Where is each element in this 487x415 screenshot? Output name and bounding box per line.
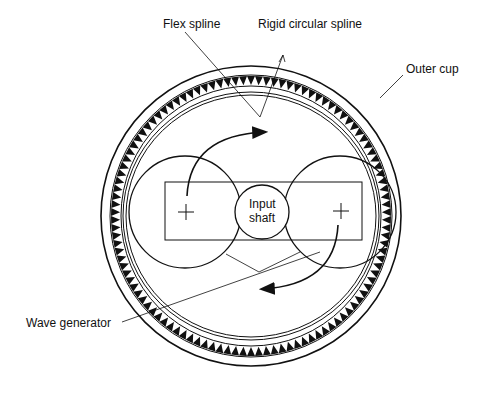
label-rigid-circular-spline: Rigid circular spline (258, 17, 362, 31)
label-outer-cup: Outer cup (406, 62, 459, 76)
label-input-shaft-2: shaft (249, 211, 275, 225)
label-flex-spline: Flex spline (163, 17, 220, 31)
label-wave-generator: Wave generator (26, 316, 111, 330)
center-mark-right (333, 203, 349, 219)
label-input-shaft-1: Input (249, 197, 276, 211)
leader-rigid-spline (260, 55, 283, 117)
center-mark-left (178, 204, 194, 220)
leader-wave-generator (122, 252, 320, 322)
leader-outer-cup (380, 75, 403, 98)
